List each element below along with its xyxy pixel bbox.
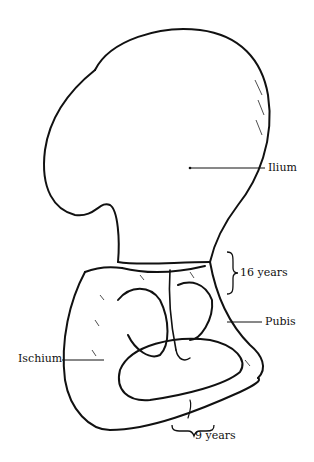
age-9-years-label: 9 years [195, 429, 236, 442]
hip-bone-drawing [0, 0, 314, 462]
ilium-label: Ilium [268, 161, 297, 174]
hip-bone-illustration: Ilium 16 years Pubis Ischium 9 years [0, 0, 314, 462]
ischium-label: Ischium [18, 352, 62, 365]
age-16-years-label: 16 years [240, 266, 288, 279]
pubis-label: Pubis [265, 315, 296, 328]
